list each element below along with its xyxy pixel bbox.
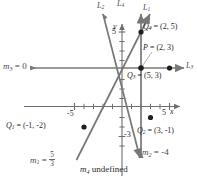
- line-label-L3: L3: [186, 62, 193, 71]
- point-P: [138, 65, 144, 71]
- point-label-Q1: Q1 = (-1, -2): [6, 122, 46, 131]
- point-Q3: [167, 65, 172, 70]
- point-label-Q2: Q2 = (3, -1): [137, 127, 174, 136]
- x-tick-label-5: 5: [162, 109, 166, 117]
- line-L3: [30, 65, 184, 70]
- y-tick-label-5: 5: [112, 28, 116, 36]
- slope-label-m4: m4 undefined: [80, 165, 128, 175]
- point-Q2: [148, 115, 153, 120]
- slope-label-m3: m3 = 0: [3, 62, 27, 72]
- line-label-L4: L4: [117, 0, 124, 9]
- slope-label-m2: m2 = -4: [142, 148, 169, 158]
- line-label-L1: L1: [143, 4, 150, 13]
- slope-fraction-m1: 53: [49, 151, 55, 167]
- point-label-Q4: Q4 = (2, 5): [143, 23, 177, 32]
- slope-label-m1: m1 = 53: [30, 151, 55, 167]
- point-Q1: [81, 124, 86, 129]
- line-label-L2: L2: [97, 2, 104, 11]
- x-tick-label-neg5: -5: [67, 110, 74, 118]
- x-axis-label: x: [170, 108, 174, 116]
- y-tick-label-neg3: -3: [124, 131, 131, 139]
- point-label-P: P = (2, 3): [143, 44, 174, 52]
- point-label-Q3: Q3 = (5, 3): [127, 72, 161, 81]
